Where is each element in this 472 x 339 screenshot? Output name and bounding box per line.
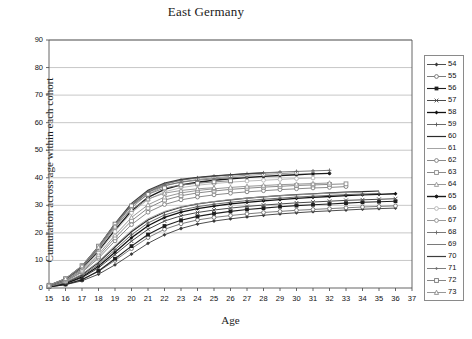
x-tick-label: 23	[173, 294, 189, 303]
y-tick-label: 50	[27, 145, 43, 154]
legend-marker-icon	[426, 119, 447, 130]
series-line	[47, 185, 348, 288]
x-tick-label: 28	[256, 294, 272, 303]
legend-label: 57	[448, 96, 456, 104]
legend-item[interactable]: 63	[425, 166, 463, 178]
legend-label: 69	[448, 240, 456, 248]
legend-marker-icon	[426, 95, 447, 106]
legend-item[interactable]: 67	[425, 214, 463, 226]
legend-item[interactable]: 68	[425, 226, 463, 238]
x-tick-label: 33	[338, 294, 354, 303]
legend-item[interactable]: 70	[425, 250, 463, 262]
legend-marker-icon	[426, 215, 447, 226]
x-tick-label: 24	[190, 294, 206, 303]
legend-marker-icon	[426, 167, 447, 178]
legend-item[interactable]: 58	[425, 106, 463, 118]
x-tick-label: 17	[74, 294, 90, 303]
x-tick-label: 15	[41, 294, 57, 303]
y-tick-label: 80	[27, 63, 43, 72]
x-tick-label: 22	[157, 294, 173, 303]
legend-item[interactable]: 71	[425, 262, 463, 274]
legend-marker-icon	[426, 275, 447, 286]
x-tick-label: 19	[107, 294, 123, 303]
x-tick-label: 27	[239, 294, 255, 303]
legend-marker-icon	[426, 239, 447, 250]
legend-label: 72	[448, 276, 456, 284]
legend-item[interactable]: 65	[425, 190, 463, 202]
x-tick-label: 34	[355, 294, 371, 303]
legend-label: 64	[448, 180, 456, 188]
legend-marker-icon	[426, 287, 447, 298]
x-tick-label: 16	[58, 294, 74, 303]
x-tick-label: 25	[206, 294, 222, 303]
x-tick-label: 32	[322, 294, 338, 303]
legend-label: 63	[448, 168, 456, 176]
legend-label: 55	[448, 72, 456, 80]
legend-label: 56	[448, 84, 456, 92]
legend-marker-icon	[426, 251, 447, 262]
x-tick-label: 26	[223, 294, 239, 303]
y-tick-label: 40	[27, 173, 43, 182]
x-tick-label: 21	[140, 294, 156, 303]
legend-label: 73	[448, 288, 456, 296]
y-tick-label: 10	[27, 255, 43, 264]
legend-item[interactable]: 73	[425, 286, 463, 298]
legend-item[interactable]: 64	[425, 178, 463, 190]
legend-label: 67	[448, 216, 456, 224]
plot-area	[0, 0, 472, 339]
legend-item[interactable]: 62	[425, 154, 463, 166]
legend-item[interactable]: 61	[425, 142, 463, 154]
y-tick-label: 60	[27, 118, 43, 127]
x-tick-label: 30	[289, 294, 305, 303]
legend-item[interactable]: 69	[425, 238, 463, 250]
legend-item[interactable]: 60	[425, 130, 463, 142]
chart-container: East Germany Cumulation across age withi…	[0, 0, 472, 339]
legend-marker-icon	[426, 179, 447, 190]
legend-label: 71	[448, 264, 456, 272]
legend-item[interactable]: 66	[425, 202, 463, 214]
legend-marker-icon	[426, 191, 447, 202]
legend-marker-icon	[426, 83, 447, 94]
y-tick-label: 90	[27, 35, 43, 44]
x-tick-label: 36	[388, 294, 404, 303]
legend-item[interactable]: 54	[425, 58, 463, 70]
legend-label: 70	[448, 252, 456, 260]
legend-label: 66	[448, 204, 456, 212]
legend-label: 60	[448, 132, 456, 140]
legend-marker-icon	[426, 131, 447, 142]
legend-label: 65	[448, 192, 456, 200]
legend-item[interactable]: 56	[425, 82, 463, 94]
legend-label: 68	[448, 228, 456, 236]
legend-marker-icon	[426, 155, 447, 166]
y-tick-label: 0	[27, 283, 43, 292]
x-tick-label: 37	[404, 294, 420, 303]
y-tick-label: 70	[27, 90, 43, 99]
y-tick-label: 20	[27, 228, 43, 237]
x-tick-label: 18	[91, 294, 107, 303]
y-tick-label: 30	[27, 200, 43, 209]
legend[interactable]: 5455565758596061626364656667686970717273	[424, 55, 464, 301]
legend-marker-icon	[426, 263, 447, 274]
legend-marker-icon	[426, 107, 447, 118]
legend-marker-icon	[426, 227, 447, 238]
legend-item[interactable]: 57	[425, 94, 463, 106]
legend-item[interactable]: 59	[425, 118, 463, 130]
legend-marker-icon	[426, 143, 447, 154]
legend-marker-icon	[426, 71, 447, 82]
legend-marker-icon	[426, 203, 447, 214]
x-axis-label: Age	[49, 314, 412, 326]
legend-label: 54	[448, 60, 456, 68]
x-tick-label: 31	[305, 294, 321, 303]
legend-label: 58	[448, 108, 456, 116]
legend-label: 61	[448, 144, 456, 152]
legend-label: 62	[448, 156, 456, 164]
x-tick-label: 29	[272, 294, 288, 303]
x-tick-label: 35	[371, 294, 387, 303]
legend-label: 59	[448, 120, 456, 128]
legend-item[interactable]: 72	[425, 274, 463, 286]
x-tick-label: 20	[124, 294, 140, 303]
legend-marker-icon	[426, 59, 447, 70]
legend-item[interactable]: 55	[425, 70, 463, 82]
